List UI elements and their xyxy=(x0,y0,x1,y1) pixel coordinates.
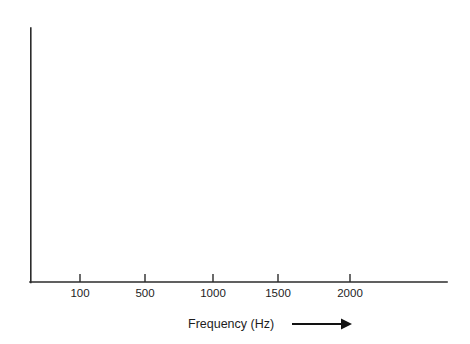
chart-canvas: 100 500 1000 1500 2000 Frequency (Hz) xyxy=(0,0,470,344)
tick-label-1500: 1500 xyxy=(265,287,291,299)
x-axis-tick-labels: 100 500 1000 1500 2000 xyxy=(70,287,362,299)
chart-figure: 100 500 1000 1500 2000 Frequency (Hz) xyxy=(0,0,470,344)
tick-label-1000: 1000 xyxy=(200,287,226,299)
tick-label-100: 100 xyxy=(70,287,89,299)
tick-label-2000: 2000 xyxy=(337,287,363,299)
x-axis-title: Frequency (Hz) xyxy=(188,317,274,331)
tick-label-500: 500 xyxy=(135,287,154,299)
x-axis-title-group: Frequency (Hz) xyxy=(188,317,352,331)
plot-area xyxy=(30,28,447,282)
frequency-direction-arrow-head xyxy=(341,319,352,330)
